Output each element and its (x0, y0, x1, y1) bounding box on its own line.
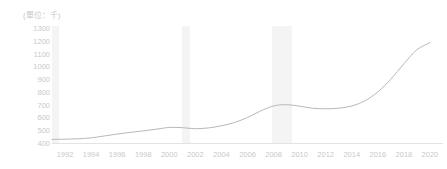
x-axis-tick-label: 2002 (187, 150, 204, 159)
x-axis-tick-label: 2004 (213, 150, 230, 159)
x-axis: 1992199419961998200020022004200620082010… (0, 150, 447, 164)
x-axis-tick-label: 1992 (57, 150, 74, 159)
y-axis-tick-label: 1200 (24, 36, 50, 45)
x-axis-tick-label: 2000 (161, 150, 178, 159)
series-path (52, 43, 430, 140)
x-axis-tick-label: 1994 (83, 150, 100, 159)
x-axis-tick-label: 1998 (135, 150, 152, 159)
y-axis-tick-label: 1100 (24, 49, 50, 58)
y-axis-tick-label: 800 (24, 87, 50, 96)
x-axis-tick-label: 1996 (109, 150, 126, 159)
y-axis-tick-label: 1300 (24, 24, 50, 33)
y-axis-tick-label: 700 (24, 100, 50, 109)
y-axis-tick-label: 1000 (24, 62, 50, 71)
x-axis-tick-label: 2010 (291, 150, 308, 159)
y-axis-tick-label: 400 (24, 139, 50, 148)
y-axis: 1300120011001000900800700600500400 (24, 0, 50, 169)
y-axis-tick-label: 900 (24, 75, 50, 84)
x-axis-tick-label: 2014 (343, 150, 360, 159)
x-axis-tick-label: 2018 (396, 150, 413, 159)
x-axis-tick-label: 2020 (422, 150, 439, 159)
line-chart: (單位：千) 130012001100100090080070060050040… (0, 0, 447, 169)
y-axis-tick-label: 600 (24, 113, 50, 122)
x-axis-tick-label: 2006 (239, 150, 256, 159)
x-axis-tick-label: 2008 (265, 150, 282, 159)
axis-baseline (52, 143, 443, 144)
x-axis-tick-label: 2012 (317, 150, 334, 159)
x-axis-tick-label: 2016 (369, 150, 386, 159)
y-axis-tick-label: 500 (24, 126, 50, 135)
